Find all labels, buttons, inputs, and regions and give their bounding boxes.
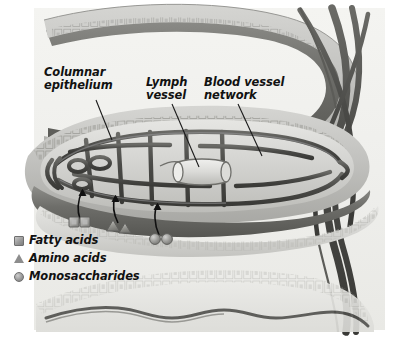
fatty-acid-highlight <box>72 220 77 225</box>
label-columnar-epithelium: Columnarepithelium <box>44 66 113 92</box>
label-lymph-vessel-line1: Lymph <box>146 75 187 89</box>
label-lymph-vessel: Lymphvessel <box>146 76 187 102</box>
legend-label-amino-acids: Amino acids <box>29 252 106 265</box>
label-lymph-vessel-line2: vessel <box>146 88 186 102</box>
label-columnar-epithelium-line1: Columnar <box>44 65 105 79</box>
label-blood-vessel-network: Blood vesselnetwork <box>204 76 284 102</box>
label-columnar-epithelium-line2: epithelium <box>44 78 113 92</box>
fatty-acid-highlight <box>83 220 88 225</box>
figure-canvas: Columnarepithelium Lymphvessel Blood ves… <box>0 0 409 352</box>
legend-item-monosaccharides: Monosaccharides <box>14 270 140 283</box>
label-blood-vessel-network-line2: network <box>204 88 257 102</box>
monosaccharide-molecule <box>162 234 173 245</box>
molecule-group-fatty-acids <box>69 217 90 227</box>
legend-item-fatty-acids: Fatty acids <box>14 234 98 247</box>
legend-item-amino-acids: Amino acids <box>14 252 106 265</box>
villus-illustration <box>0 0 409 352</box>
legend-label-monosaccharides: Monosaccharides <box>29 270 140 283</box>
monosaccharide-molecule <box>150 234 161 245</box>
label-blood-vessel-network-line1: Blood vessel <box>204 75 284 89</box>
legend-label-fatty-acids: Fatty acids <box>29 234 98 247</box>
square-swatch-icon <box>14 236 24 246</box>
triangle-swatch-icon <box>14 254 24 263</box>
circle-swatch-icon <box>14 272 24 282</box>
